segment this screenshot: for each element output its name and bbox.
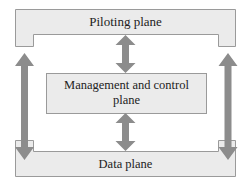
top-center-double-arrow-icon [116,35,136,73]
piloting-plane-label: Piloting plane [33,14,218,29]
management-label-line-1: Management and control [47,78,206,93]
management-label-line-2: plane [47,93,206,108]
bottom-center-double-arrow-icon [116,113,136,151]
management-control-plane-label: Management and control plane [47,78,206,108]
data-plane-label: Data plane [33,157,218,172]
